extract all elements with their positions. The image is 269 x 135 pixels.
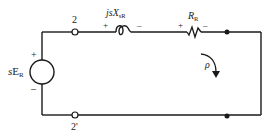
terminal-2-label: 2: [72, 14, 77, 25]
source-plus: +: [31, 49, 37, 60]
terminal-2prime-label: 2': [71, 121, 78, 132]
resistor-icon: [187, 27, 201, 37]
junction-dot-bottom: [225, 114, 230, 119]
resistor-minus: –: [202, 20, 208, 30]
terminal-2-icon: [72, 29, 78, 35]
inductor-plus: +: [103, 20, 108, 30]
terminal-2prime-icon: [72, 112, 78, 118]
wires: [42, 32, 261, 115]
resistor-label: RR: [187, 10, 199, 22]
resistor-plus: +: [178, 20, 183, 30]
source-label: sER: [8, 65, 24, 79]
inductor-label-sub: sR: [119, 12, 127, 19]
inductor-icon: [116, 26, 131, 35]
loop-current-arrowhead-icon: [212, 71, 220, 78]
source-label-sub: R: [19, 71, 24, 79]
circuit-diagram: + – sER 2 2' + – jsXsR + – RR ρ: [0, 0, 269, 135]
inductor-label-prefix: js: [104, 7, 113, 18]
resistor-label-main: R: [187, 10, 194, 21]
inductor-minus: –: [136, 20, 142, 30]
source-minus: –: [30, 83, 37, 94]
loop-current-label: ρ: [204, 59, 210, 70]
junction-dot-top: [225, 30, 230, 35]
inductor-label: jsXsR: [104, 7, 126, 19]
voltage-source-icon: [30, 60, 54, 84]
resistor-label-sub: R: [194, 15, 199, 22]
